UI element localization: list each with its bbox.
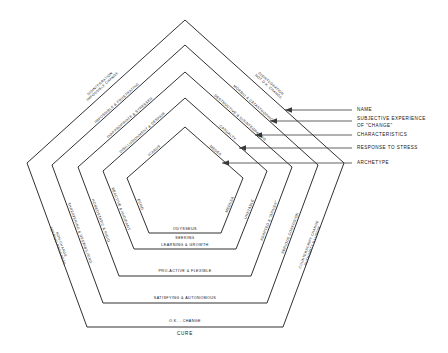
ring-4-bottom-line2: LEARNING & GROWTH: [161, 243, 208, 247]
ring-3-bottom-label: PRO-ACTIVE & FLEXIBLE: [158, 269, 211, 273]
ring-4-upper-right-label: CASUALTY: [218, 124, 237, 141]
pentagon-ring-5: [127, 127, 243, 233]
pentagon-ring-1: [27, 20, 344, 327]
pentagon-diagram: NAME SUBJECTIVE EXPERIENCE OF "CHANGE" C…: [0, 0, 448, 353]
callout-label-characteristics: CHARACTERISTICS: [357, 132, 407, 137]
callout-label-subjective-line1: SUBJECTIVE EXPERIENCE: [357, 116, 426, 121]
pentagon-ring-2: [52, 45, 318, 303]
callout-label-name: NAME: [357, 107, 372, 112]
ring-1-upper-left-line1: DISINTEGRATION: [86, 71, 113, 96]
ring-2-lower-right-label: SERIOUS CONFUSION: [281, 212, 300, 254]
callout-label-response-to-stress: RESPONSE TO STRESS: [357, 145, 418, 150]
callout-label-archetype: ARCHETYPE: [357, 160, 389, 165]
ring-5-upper-left-label: ICARUS: [147, 144, 161, 157]
ring-4-lower-left-label: REACTIVE & AVOIDANT: [110, 187, 131, 232]
pentagon-diagram-canvas: NAME SUBJECTIVE EXPERIENCE OF "CHANGE" C…: [0, 0, 448, 353]
ring-5-bottom-label: ODYSSEUS: [173, 227, 197, 231]
ring-2-edge-labels: IMPOSSIBLE & FRUSTRATING MORBID & CATAST…: [67, 82, 300, 300]
ring-5-upper-right-label: MEDEA: [209, 144, 223, 157]
ring-2-bottom-label: SATISFYING & AUTONOMOUS: [154, 296, 217, 300]
leader-arrow-name: [285, 107, 292, 113]
ring-1-bottom-line2-cure: CURE: [177, 331, 193, 336]
ring-1-upper-right-line1: DISINTEGRATION: [257, 71, 284, 96]
ring-3-upper-right-label: DESTRUCTIVE & DISINTEGRATING: [213, 94, 267, 142]
ring-1-bottom-line1: O.K. - CHANGE: [169, 319, 201, 323]
ring-4-bottom-line1: SEEKING: [175, 236, 194, 240]
callout-labels: NAME SUBJECTIVE EXPERIENCE OF "CHANGE" C…: [357, 107, 426, 165]
ring-3-lower-right-label: ADAPTED & "DRIVEN": [260, 200, 279, 242]
ring-1-upper-left-line2: IMPOSSIBLE CHANGE: [86, 71, 120, 102]
callout-label-subjective-line2: OF "CHANGE": [357, 123, 393, 128]
pentagon-rings: [27, 20, 344, 327]
ring-3-lower-left-label: HOMEOSTATIC & RIGID: [91, 199, 111, 243]
ring-2-lower-left-label: THREATENING & DESTABILISING: [67, 202, 93, 264]
leader-arrow-response: [239, 145, 246, 151]
